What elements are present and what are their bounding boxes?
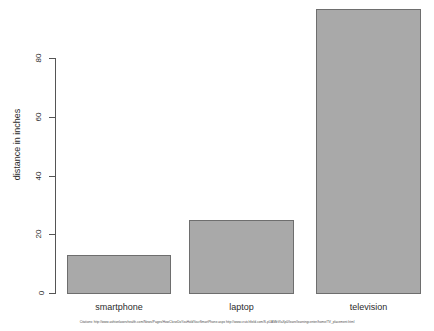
x-axis-label-smartphone: smartphone <box>67 302 171 312</box>
y-axis-tick-80 <box>49 58 55 59</box>
bar-smartphone <box>67 255 171 294</box>
bar-chart: 80 60 40 20 0 distance in inches smartph… <box>0 0 434 331</box>
y-axis-tick-label-40: 40 <box>0 172 44 180</box>
y-axis-tick-60 <box>49 117 55 118</box>
x-axis-label-laptop: laptop <box>189 302 294 312</box>
bar-television <box>316 9 421 294</box>
bar-laptop <box>189 220 294 294</box>
plot-area: 80 60 40 20 0 distance in inches smartph… <box>0 0 434 331</box>
y-axis-tick-label-0: 0 <box>0 289 44 297</box>
y-axis-title: distance in inches <box>13 80 22 210</box>
y-axis-tick-40 <box>49 176 55 177</box>
y-axis-line <box>55 58 56 294</box>
citation-text: Citations: http://www.ashtonlaservhealth… <box>0 320 434 324</box>
y-axis-tick-label-80: 80 <box>0 54 44 62</box>
y-axis-tick-label-60: 60 <box>0 113 44 121</box>
y-axis-tick-label-20: 20 <box>0 230 44 238</box>
y-axis-tick-20 <box>49 234 55 235</box>
x-axis-label-television: television <box>316 302 421 312</box>
y-axis-tick-0 <box>49 293 55 294</box>
